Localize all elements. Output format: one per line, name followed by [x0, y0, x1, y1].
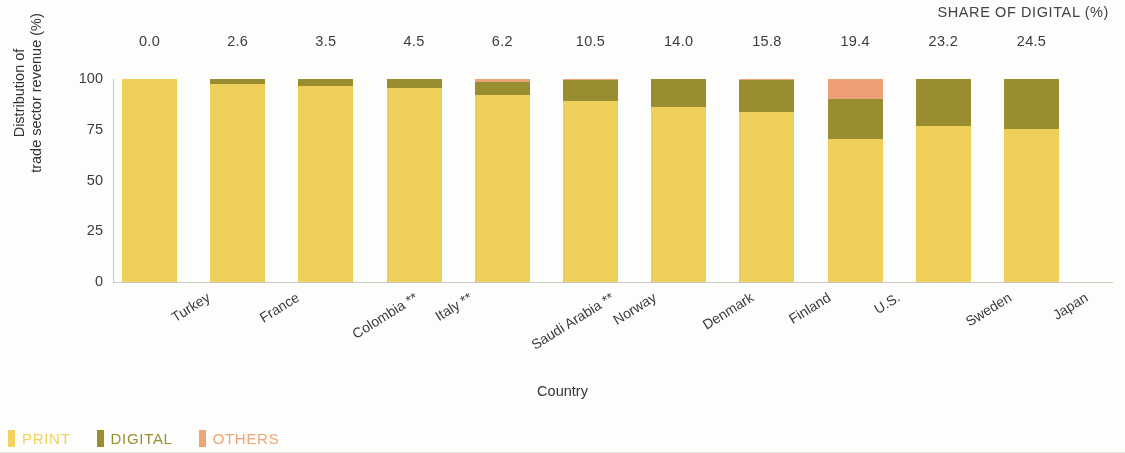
bar-group[interactable] [1004, 79, 1059, 282]
bar-segment-digital[interactable] [1004, 79, 1059, 129]
bar-group[interactable] [563, 79, 618, 282]
bar-segment-digital[interactable] [828, 99, 883, 138]
x-axis-category-label: Denmark [699, 289, 756, 333]
x-axis-category-label: Norway [610, 289, 659, 328]
bar-segment-print[interactable] [1004, 129, 1059, 282]
bar-group[interactable] [651, 79, 706, 282]
bar-segment-digital[interactable] [739, 80, 794, 112]
bar-segment-digital[interactable] [387, 79, 442, 88]
x-axis-category-label: Colombia ** [349, 289, 420, 342]
bar-segment-print[interactable] [298, 86, 353, 282]
bar-segment-digital[interactable] [651, 79, 706, 107]
y-axis-tick-label: 0 [63, 273, 103, 289]
bar-group[interactable] [739, 79, 794, 282]
x-axis-category-label: Italy ** [432, 289, 475, 324]
legend-others[interactable]: OTHERS [199, 430, 280, 447]
bar-group[interactable] [210, 79, 265, 282]
bar-segment-print[interactable] [475, 95, 530, 282]
x-axis-category-label: Sweden [963, 289, 1014, 329]
bar-segment-digital[interactable] [916, 79, 971, 126]
legend-label: OTHERS [213, 430, 280, 447]
bar-segment-print[interactable] [739, 112, 794, 282]
y-axis-tick-label: 100 [63, 70, 103, 86]
bar-segment-digital[interactable] [475, 82, 530, 95]
chart-legend: PRINTDIGITALOTHERS [8, 430, 305, 447]
legend-swatch-icon [8, 430, 15, 447]
x-axis-category-label: U.S. [871, 289, 903, 317]
bar-segment-digital[interactable] [563, 80, 618, 101]
bar-segment-print[interactable] [563, 101, 618, 282]
y-axis-tick-label: 75 [63, 121, 103, 137]
bar-segment-print[interactable] [916, 126, 971, 282]
x-axis-category-label: Saudi Arabia ** [529, 289, 617, 352]
bar-group[interactable] [122, 79, 177, 282]
bar-segment-print[interactable] [387, 88, 442, 282]
bar-segment-print[interactable] [122, 79, 177, 282]
legend-swatch-icon [199, 430, 206, 447]
legend-digital[interactable]: DIGITAL [97, 430, 173, 447]
bar-segment-others[interactable] [828, 79, 883, 99]
bar-group[interactable] [475, 79, 530, 282]
y-axis-tick-label: 50 [63, 172, 103, 188]
bar-group[interactable] [916, 79, 971, 282]
x-axis-category-label: Japan [1049, 289, 1090, 323]
x-axis-category-label: Finland [786, 289, 833, 327]
legend-label: DIGITAL [111, 430, 173, 447]
legend-swatch-icon [97, 430, 104, 447]
y-axis-tick-label: 25 [63, 222, 103, 238]
legend-label: PRINT [22, 430, 71, 447]
x-axis-title: Country [0, 383, 1125, 399]
stacked-bar-chart: SHARE OF DIGITAL (%) 0.02.63.54.56.210.5… [0, 0, 1125, 453]
bar-segment-print[interactable] [651, 107, 706, 282]
bar-segment-print[interactable] [210, 84, 265, 282]
x-axis-category-label: Turkey [168, 289, 212, 325]
bar-group[interactable] [828, 79, 883, 282]
bar-group[interactable] [298, 79, 353, 282]
legend-print[interactable]: PRINT [8, 430, 71, 447]
bar-group[interactable] [387, 79, 442, 282]
x-axis-category-label: France [256, 289, 301, 326]
bar-segment-print[interactable] [828, 139, 883, 282]
bar-segment-digital[interactable] [298, 79, 353, 86]
